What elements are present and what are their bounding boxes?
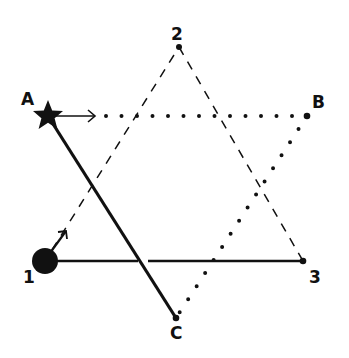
arrow-up-right-icon — [50, 231, 67, 253]
edge-B-C-dotted — [176, 116, 307, 318]
star-marker-A — [33, 100, 63, 129]
label-2: 2 — [171, 24, 183, 44]
label-A: A — [21, 89, 35, 109]
star-diagram: 2 A B 1 3 C — [0, 0, 349, 358]
label-1: 1 — [23, 267, 35, 287]
dot-marker-C — [173, 315, 180, 322]
circle-marker-1 — [32, 248, 58, 274]
label-3: 3 — [309, 267, 321, 287]
dot-marker-3 — [300, 258, 307, 265]
label-B: B — [312, 92, 325, 112]
label-C: C — [170, 323, 182, 343]
edge-2-3-dashed — [179, 47, 303, 261]
edge-A-C-solid — [48, 116, 176, 318]
dot-marker-2 — [176, 44, 182, 50]
dot-marker-B — [304, 113, 311, 120]
